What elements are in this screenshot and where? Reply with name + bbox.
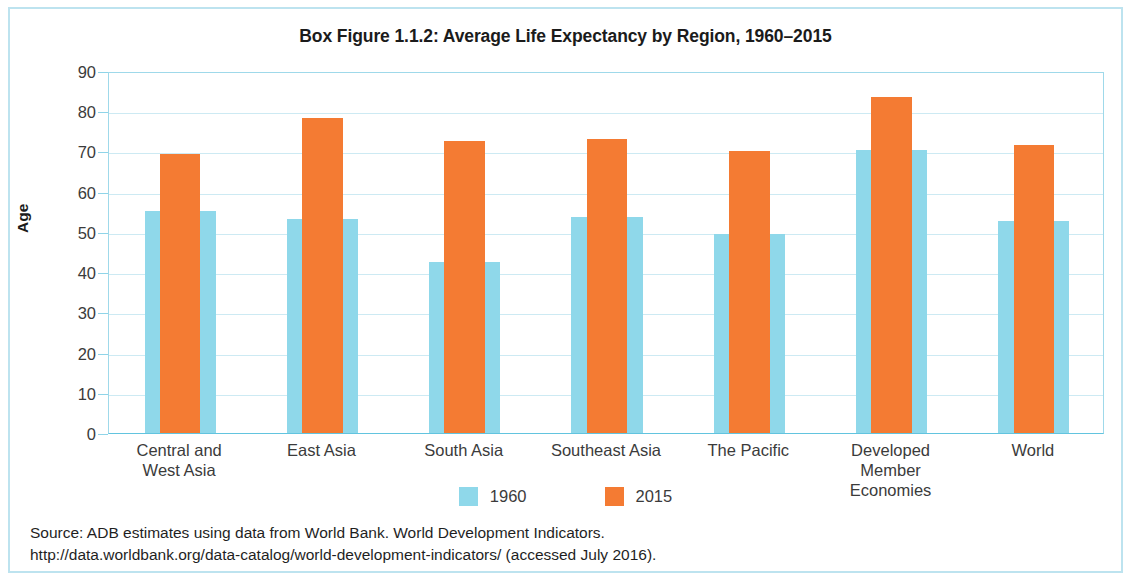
- y-tick-label-0: 0: [36, 425, 96, 444]
- bar-2015: [729, 151, 770, 433]
- x-category-label-line: The Pacific: [677, 440, 819, 460]
- box-figure-container: Box Figure 1.1.2: Average Life Expectanc…: [0, 0, 1131, 582]
- bar-group: [678, 73, 820, 433]
- y-axis-label: Age: [14, 204, 32, 233]
- legend-label-1960: 1960: [490, 487, 527, 506]
- chart-title: Box Figure 1.1.2: Average Life Expectanc…: [0, 26, 1131, 47]
- y-tick-mark-90: [98, 72, 108, 73]
- y-tick-mark-50: [98, 233, 108, 234]
- x-category-label-line: World: [962, 440, 1104, 460]
- y-tick-mark-20: [98, 354, 108, 355]
- x-category-label-line: Central and: [108, 440, 250, 460]
- plot-area: [108, 72, 1104, 434]
- legend-swatch-2015: [605, 487, 624, 506]
- x-category-label: East Asia: [250, 440, 392, 460]
- bar-2015: [444, 141, 485, 433]
- bar-2015: [871, 97, 912, 433]
- bar-group: [963, 73, 1105, 433]
- legend-swatch-1960: [459, 487, 478, 506]
- y-tick-label-40: 40: [36, 264, 96, 283]
- x-category-label: Southeast Asia: [535, 440, 677, 460]
- x-category-label: World: [962, 440, 1104, 460]
- bar-group: [394, 73, 536, 433]
- legend-item-1960: 1960: [459, 487, 527, 506]
- x-category-label: The Pacific: [677, 440, 819, 460]
- y-tick-mark-80: [98, 112, 108, 113]
- legend-item-2015: 2015: [605, 487, 673, 506]
- bar-2015: [160, 154, 201, 433]
- y-tick-mark-10: [98, 394, 108, 395]
- y-tick-mark-60: [98, 193, 108, 194]
- x-category-label-line: East Asia: [250, 440, 392, 460]
- y-tick-mark-40: [98, 273, 108, 274]
- y-tick-label-70: 70: [36, 143, 96, 162]
- chart-legend: 19602015: [0, 487, 1131, 506]
- x-category-label-line: South Asia: [393, 440, 535, 460]
- bar-group: [109, 73, 251, 433]
- x-category-label-line: Developed Member: [819, 440, 961, 480]
- y-tick-label-90: 90: [36, 63, 96, 82]
- source-line-1: Source: ADB estimates using data from Wo…: [30, 522, 656, 544]
- x-category-label: Central andWest Asia: [108, 440, 250, 480]
- y-tick-label-80: 80: [36, 103, 96, 122]
- x-category-label-line: West Asia: [108, 460, 250, 480]
- bar-group: [536, 73, 678, 433]
- source-line-2: http://data.worldbank.org/data-catalog/w…: [30, 544, 656, 566]
- bar-group: [251, 73, 393, 433]
- y-tick-label-50: 50: [36, 223, 96, 242]
- y-tick-mark-70: [98, 152, 108, 153]
- y-tick-label-60: 60: [36, 183, 96, 202]
- bar-2015: [302, 118, 343, 433]
- y-tick-label-20: 20: [36, 344, 96, 363]
- x-category-label: South Asia: [393, 440, 535, 460]
- source-note: Source: ADB estimates using data from Wo…: [30, 522, 656, 566]
- y-tick-label-30: 30: [36, 304, 96, 323]
- y-tick-mark-0: [98, 434, 108, 435]
- legend-label-2015: 2015: [636, 487, 673, 506]
- bar-2015: [587, 139, 628, 433]
- y-tick-mark-30: [98, 313, 108, 314]
- x-category-label-line: Southeast Asia: [535, 440, 677, 460]
- bar-group: [820, 73, 962, 433]
- y-tick-label-10: 10: [36, 384, 96, 403]
- bar-2015: [1014, 145, 1055, 433]
